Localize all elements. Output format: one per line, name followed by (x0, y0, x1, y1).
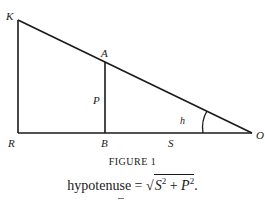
segment-label-P: P (93, 95, 100, 106)
formula-plus: + (170, 178, 178, 193)
sqrt-sign: √ (146, 178, 154, 193)
formula-p: P (181, 178, 190, 193)
point-label-K: K (6, 11, 13, 22)
right-triangle-diagram (0, 0, 265, 203)
formula-lhs: hypotenuse (67, 178, 131, 193)
point-label-A: A (101, 48, 108, 59)
formula-equals: = (135, 178, 143, 193)
formula-s: S (155, 178, 162, 193)
point-label-O: O (256, 130, 264, 141)
figure-caption: FIGURE 1 (0, 156, 265, 167)
sqrt-radicand: S2 + P2 (154, 174, 194, 192)
point-label-B: B (101, 138, 108, 149)
angle-label-h: h (180, 115, 185, 126)
cropped-text-fragment (118, 198, 124, 203)
hypotenuse-formula: hypotenuse = √S2 + P2. (0, 174, 265, 194)
angle-h-arc (203, 111, 208, 133)
formula-s-exponent: 2 (162, 176, 167, 186)
segment-label-S: S (168, 138, 174, 149)
point-label-R: R (8, 138, 15, 149)
line-K-O (18, 20, 252, 133)
formula-period: . (194, 178, 198, 193)
